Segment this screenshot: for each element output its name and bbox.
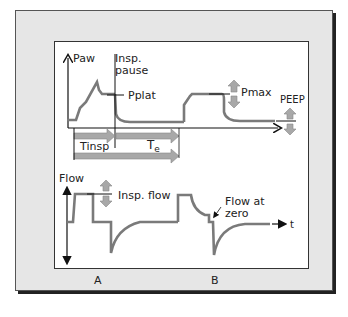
flow-at-zero-pointer: [214, 207, 221, 217]
te-label: Te: [146, 138, 160, 154]
flow-label: Flow: [59, 172, 84, 185]
flow-panel: Flow t Insp. flow Flow at zero: [59, 172, 294, 263]
panel-label-b: B: [211, 274, 219, 287]
insp-pause-label-2: pause: [115, 64, 148, 77]
pressure-panel: Paw Insp. pause Pplat Pmax PEEP Tinsp Te: [67, 52, 305, 163]
pmax-label: Pmax: [241, 86, 272, 99]
paw-label: Paw: [73, 52, 95, 65]
panel-label-a: A: [94, 274, 102, 287]
ventilator-waveform-diagram: Paw Insp. pause Pplat Pmax PEEP Tinsp Te: [0, 0, 348, 317]
flow-curve-a: [67, 194, 178, 253]
pplat-label: Pplat: [128, 89, 156, 102]
insp-flow-label: Insp. flow: [118, 189, 171, 202]
t-label: t: [290, 219, 294, 230]
flow-at-zero-label-2: zero: [225, 207, 249, 220]
tinsp-label: Tinsp: [79, 140, 109, 153]
pressure-curve-a: [67, 82, 115, 120]
peep-label: PEEP: [280, 94, 305, 105]
